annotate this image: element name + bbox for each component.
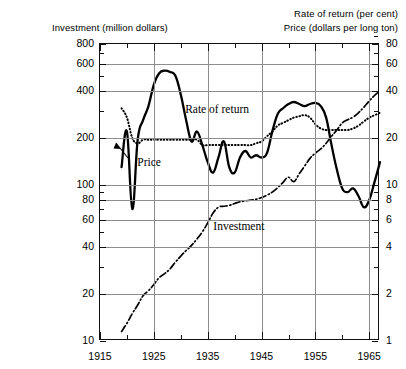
right-axis-caption-rate: Rate of return (per cent)	[294, 8, 398, 19]
y-axis-label-right: 40	[386, 84, 406, 96]
y-axis-label-left: 600	[54, 57, 94, 69]
axis-tick-right	[372, 247, 378, 248]
series-canvas	[100, 44, 380, 341]
axis-tick-right	[372, 138, 378, 139]
gridline-horizontal	[100, 91, 378, 92]
axis-tick-left	[100, 138, 106, 139]
x-axis-label: 1965	[358, 350, 381, 362]
x-axis-label: 1925	[142, 350, 165, 362]
axis-minor-tick-right	[374, 53, 378, 54]
annotation-investment: Investment	[213, 220, 264, 232]
axis-tick-left	[100, 91, 106, 92]
axis-tick-left	[100, 294, 106, 295]
axis-tick-right	[372, 64, 378, 65]
x-axis-label: 1945	[250, 350, 273, 362]
y-axis-label-right: 80	[386, 37, 406, 49]
axis-tick-top	[289, 44, 290, 48]
axis-minor-tick-right	[374, 267, 378, 268]
axis-tick-top	[127, 44, 128, 48]
axis-tick-bottom	[208, 332, 209, 339]
gridline-vertical	[154, 44, 155, 339]
axis-minor-tick-left	[100, 267, 104, 268]
axis-tick-top	[154, 44, 155, 51]
y-axis-label-right: 8	[386, 193, 406, 205]
x-axis-label: 1915	[88, 350, 111, 362]
y-axis-label-right: 20	[386, 131, 406, 143]
axis-minor-tick-right	[374, 232, 378, 233]
y-axis-label-left: 400	[54, 84, 94, 96]
axis-minor-tick-bottom	[235, 335, 236, 339]
y-axis-label-left: 200	[54, 131, 94, 143]
axis-minor-tick-bottom	[127, 335, 128, 339]
y-axis-label-left: 20	[54, 287, 94, 299]
axis-tick-right	[372, 44, 378, 45]
gridline-vertical	[369, 44, 370, 339]
axis-tick-right	[372, 91, 378, 92]
right-axis-caption-price: Price (dollars per long ton)	[284, 22, 398, 33]
axis-tick-left	[100, 341, 106, 342]
series-investment-line	[122, 91, 380, 332]
axis-minor-tick-right	[374, 192, 378, 193]
axis-tick-top	[208, 44, 209, 51]
axis-tick-top	[342, 44, 343, 48]
axis-minor-tick-left	[100, 192, 104, 193]
y-axis-label-right: 60	[386, 57, 406, 69]
gridline-horizontal	[100, 200, 378, 201]
axis-tick-bottom	[100, 332, 101, 339]
axis-minor-tick-bottom	[289, 335, 290, 339]
axis-minor-tick-right	[374, 209, 378, 210]
gridline-vertical	[208, 44, 209, 339]
axis-minor-tick-left	[100, 111, 104, 112]
y-axis-label-right: 6	[386, 213, 406, 225]
gridline-horizontal	[100, 138, 378, 139]
axis-tick-left	[100, 64, 106, 65]
x-axis-label: 1955	[304, 350, 327, 362]
y-axis-label-right: 2	[386, 287, 406, 299]
axis-tick-left	[100, 247, 106, 248]
chart-container: Investment (million dollars) Rate of ret…	[0, 0, 406, 369]
gridline-vertical	[262, 44, 263, 339]
y-axis-label-right: 4	[386, 240, 406, 252]
axis-tick-left	[100, 200, 106, 201]
axis-tick-bottom	[262, 332, 263, 339]
axis-tick-right	[372, 185, 378, 186]
y-axis-label-right: 10	[386, 178, 406, 190]
plot-area: 1020406080100200400600800124681020406080…	[99, 43, 379, 340]
y-axis-label-left: 100	[54, 178, 94, 190]
axis-tick-bottom	[369, 332, 370, 339]
series-price-line	[122, 108, 380, 145]
y-axis-label-left: 80	[54, 193, 94, 205]
axis-tick-right	[372, 294, 378, 295]
annotation-price: Price	[137, 156, 161, 168]
y-axis-label-left: 800	[54, 37, 94, 49]
x-axis-label: 1935	[196, 350, 219, 362]
axis-tick-bottom	[154, 332, 155, 339]
axis-tick-right	[372, 200, 378, 201]
annotation-rate-of-return: Rate of return	[185, 103, 249, 115]
axis-tick-top	[100, 44, 101, 51]
y-axis-label-right: 1	[386, 334, 406, 346]
axis-tick-top	[262, 44, 263, 51]
axis-tick-right	[372, 220, 378, 221]
axis-tick-top	[181, 44, 182, 48]
gridline-horizontal	[100, 64, 378, 65]
axis-minor-tick-bottom	[342, 335, 343, 339]
axis-minor-tick-left	[100, 76, 104, 77]
y-axis-label-left: 10	[54, 334, 94, 346]
y-axis-label-left: 60	[54, 213, 94, 225]
axis-minor-tick-left	[100, 232, 104, 233]
axis-minor-tick-left	[100, 209, 104, 210]
axis-tick-bottom	[315, 332, 316, 339]
axis-minor-tick-right	[374, 36, 378, 37]
gridline-horizontal	[100, 185, 378, 186]
axis-tick-left	[100, 220, 106, 221]
axis-tick-top	[235, 44, 236, 48]
gridline-horizontal	[100, 294, 378, 295]
axis-minor-tick-right	[374, 111, 378, 112]
axis-minor-tick-left	[100, 53, 104, 54]
axis-tick-left	[100, 185, 106, 186]
gridline-horizontal	[100, 247, 378, 248]
axis-minor-tick-right	[374, 76, 378, 77]
axis-tick-top	[315, 44, 316, 51]
axis-tick-right	[372, 341, 378, 342]
